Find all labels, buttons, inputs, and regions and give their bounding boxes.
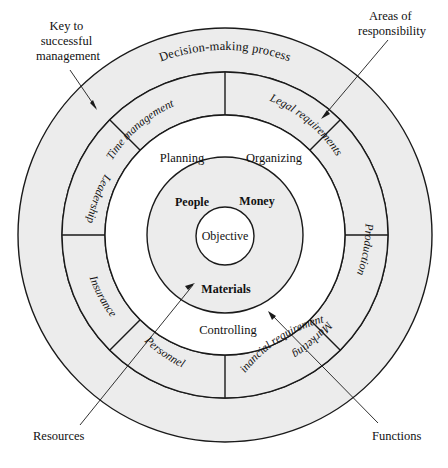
svg-text:Functions: Functions [372, 429, 421, 443]
management-wheel-svg: Decision-making process Time management … [0, 0, 448, 468]
callout-functions: Functions [372, 429, 421, 443]
function-label-organizing: Organizing [246, 151, 303, 165]
function-label-controlling: Controlling [199, 323, 257, 337]
resource-label-money: Money [239, 194, 274, 208]
svg-text:Key to successful: Key to successful management [36, 19, 100, 63]
diagram-root: Decision-making process Time management … [0, 0, 448, 468]
core-label-objective: Objective [202, 229, 249, 243]
svg-text:Areas of responsibility: Areas of responsibility [358, 9, 427, 38]
callout-resources: Resources [33, 429, 85, 443]
resource-label-materials: Materials [201, 282, 251, 296]
svg-text:Resources: Resources [33, 429, 85, 443]
callout-key-to-successful-management: Key to successful management [36, 19, 100, 63]
resource-label-people: People [175, 195, 210, 209]
function-label-planning: Planning [160, 151, 205, 165]
callout-areas-of-responsibility: Areas of responsibility [358, 9, 427, 38]
